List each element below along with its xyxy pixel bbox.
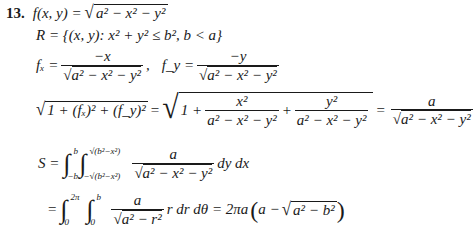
fy-fraction: −y √a² − x² − y² xyxy=(197,48,279,84)
inner-lower-limit: 0 xyxy=(90,218,95,227)
result-denominator: √a² − x² − y² xyxy=(391,109,473,128)
inner-upper-limit: b xyxy=(96,193,101,202)
x-term-fraction: x² a² − x² − y² xyxy=(205,93,279,129)
integrand-radicand: a² − x² − y² xyxy=(143,164,213,181)
line-function-definition: 13. f(x, y) = √ a² − x² − y² xyxy=(6,4,168,22)
radical-sign: √ xyxy=(162,90,178,130)
region-text: R = {(x, y): x² + y² ≤ b², b < a} xyxy=(36,27,222,44)
outer-upper-limit: b xyxy=(73,147,78,156)
fx-label: fₓ = xyxy=(36,57,58,74)
fy-numerator: −y xyxy=(228,48,249,65)
integrand-numerator: a xyxy=(168,146,180,163)
function-lhs: f(x, y) = xyxy=(33,5,82,22)
integrand-denominator: √a² − x² − y² xyxy=(132,163,214,182)
outer-lower-limit: 0 xyxy=(64,218,69,227)
lhs-sqrt: √ 1 + (fₓ)² + (f_y)² xyxy=(36,101,148,119)
line-partial-derivatives: fₓ = −x √a² − x² − y² , f_y = −y √a² − x… xyxy=(36,48,282,84)
radical-sign: √ xyxy=(36,100,45,120)
fx-denominator: √a² − x² − y² xyxy=(61,65,143,84)
result-sqrt: √ a² − b² xyxy=(282,201,337,219)
fx-fraction: −x √a² − x² − y² xyxy=(61,48,143,84)
paren-a: a − xyxy=(258,201,279,218)
radical-sign: √ xyxy=(282,200,291,220)
outer-integral: ∫ b −b xyxy=(63,151,79,177)
fy-denominator: √a² − x² − y² xyxy=(197,65,279,84)
s-lhs: S = xyxy=(38,155,59,172)
integrand-fraction: a √a² − x² − y² xyxy=(132,146,214,182)
fy-label: f_y = xyxy=(162,57,194,74)
y-term-fraction: y² a² − x² − y² xyxy=(295,93,369,129)
fx-numerator: −x xyxy=(92,48,113,65)
y-term-denominator: a² − x² − y² xyxy=(295,110,369,129)
radical-sign: √ xyxy=(85,3,94,23)
result-radicand: a² − x² − y² xyxy=(401,110,471,127)
right-paren: ) xyxy=(337,198,345,222)
separator: , xyxy=(146,57,150,74)
integrand-denominator: √a² − r² xyxy=(111,209,163,228)
outer-integral: ∫ 2π 0 xyxy=(60,197,86,223)
differentials: dy dx xyxy=(217,155,249,172)
middle-sqrt: √ 1 + x² a² − x² − y² + y² a² − x² − y² xyxy=(162,92,373,129)
line-polar-integral: = ∫ 2π 0 ∫ b 0 a √a² − r² r dr dθ = 2πa … xyxy=(48,192,345,228)
equals: = xyxy=(48,201,56,218)
sqrt-expression: √ a² − x² − y² xyxy=(85,4,168,22)
result-radicand: a² − b² xyxy=(291,201,337,219)
integrand-numerator: a xyxy=(132,192,144,209)
fx-radicand: a² − x² − y² xyxy=(72,66,142,83)
outer-upper-limit: 2π xyxy=(70,193,79,202)
x-term-denominator: a² − x² − y² xyxy=(205,110,279,129)
equals: = xyxy=(151,102,159,119)
inner-upper-limit: √(b²−x²) xyxy=(89,147,120,156)
inner-integral: ∫ b 0 xyxy=(86,197,108,223)
integrand-fraction: a √a² − r² xyxy=(111,192,163,228)
fy-radicand: a² − x² − y² xyxy=(207,66,277,83)
middle-radicand: 1 + x² a² − x² − y² + y² a² − x² − y² xyxy=(179,92,374,129)
radicand: a² − x² − y² xyxy=(94,4,168,22)
left-paren: ( xyxy=(250,198,258,222)
y-term-numerator: y² xyxy=(324,93,339,110)
x-term-numerator: x² xyxy=(234,93,249,110)
line-region-definition: R = {(x, y): x² + y² ≤ b², b < a} xyxy=(36,27,222,44)
one-plus: 1 + xyxy=(181,102,202,119)
plus: + xyxy=(282,102,292,119)
line-surface-element: √ 1 + (fₓ)² + (f_y)² = √ 1 + x² a² − x² … xyxy=(36,92,476,129)
differentials-and-result: r dr dθ = 2πa xyxy=(167,201,249,218)
outer-lower-limit: −b xyxy=(67,172,78,181)
problem-number: 13. xyxy=(6,5,25,22)
integrand-radicand: a² − r² xyxy=(122,210,162,227)
equals: = xyxy=(376,102,384,119)
inner-integral: ∫ √(b²−x²) −√(b²−x²) xyxy=(79,151,129,177)
inner-lower-limit: −√(b²−x²) xyxy=(83,172,120,181)
result-numerator: a xyxy=(426,93,438,110)
lhs-radicand: 1 + (fₓ)² + (f_y)² xyxy=(45,101,147,119)
line-surface-integral: S = ∫ b −b ∫ √(b²−x²) −√(b²−x²) a √a² − … xyxy=(38,146,249,182)
result-fraction: a √a² − x² − y² xyxy=(391,93,473,129)
